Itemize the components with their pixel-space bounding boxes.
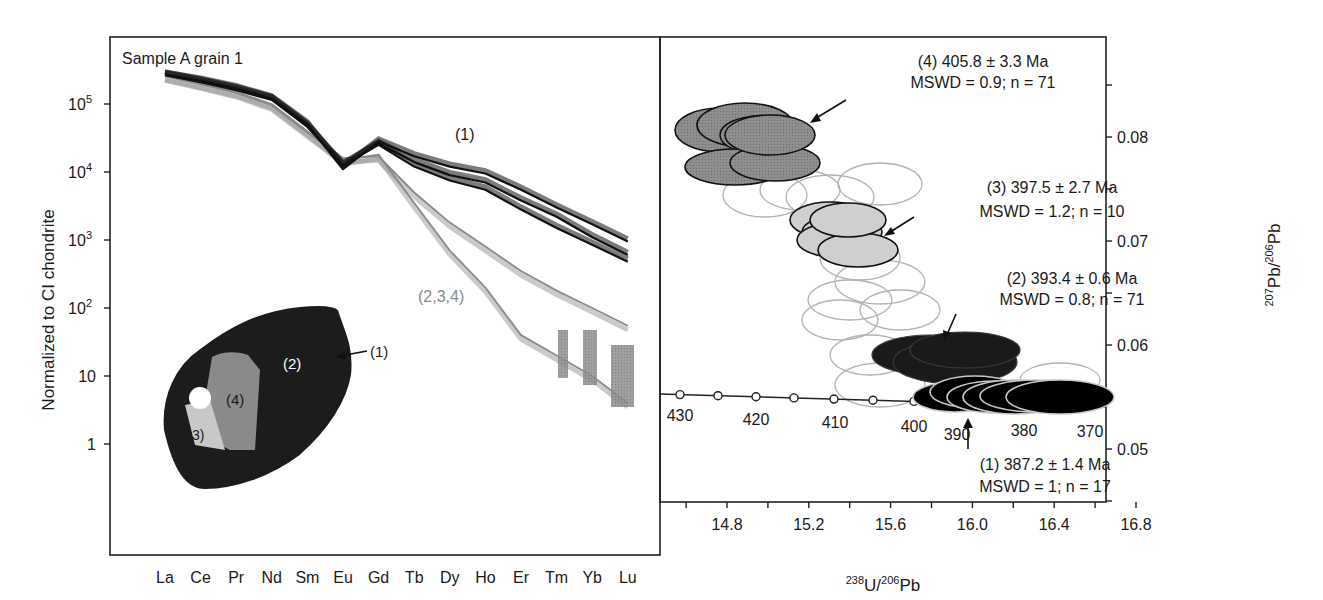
x-tick-label: 15.6 [875,516,906,533]
zircon-cl-inset: (2) (4) 3) (1) [163,305,389,490]
zone-2-label: (2) [283,355,301,372]
rim-curve-label: (1) [455,126,475,143]
ablation-pit [189,387,211,409]
group-4-age-label: (4) 405.8 ± 3.3 Ma [918,53,1049,70]
right-x-axis-label: 238U/206Pb [846,574,921,595]
x-category-label: Dy [440,569,460,586]
concordia-age-label: 400 [901,418,928,435]
concordia-age-label: 410 [822,414,849,431]
y-tick-label: 0.07 [1117,233,1148,250]
plot-title: Sample A grain 1 [122,50,243,67]
left-y-axis-label: Normalized to CI chondrite [39,209,58,410]
group-4-arrowhead [810,113,821,123]
concordia-age-marker [676,391,684,399]
x-category-label: Gd [368,569,389,586]
group-1-age-label: (1) 387.2 ± 1.4 Ma [980,456,1111,473]
y-tick-label: 1 [87,436,96,453]
x-category-label: Lu [619,569,637,586]
y-tick-label: 105 [68,93,92,113]
x-category-label: Ce [190,569,211,586]
x-category-label: La [156,569,174,586]
y-tick-label: 0.05 [1117,441,1148,458]
ree-pattern-band [165,72,628,259]
concordia-age-marker [714,392,722,400]
group-4-ellipses [675,103,820,185]
concordia-age-label: 370 [1077,423,1104,440]
y-tick-label: 103 [68,229,92,249]
x-tick-label: 16.4 [1039,516,1070,533]
y-tick-label: 0.08 [1117,129,1148,146]
x-tick-label: 16.8 [1120,516,1151,533]
x-tick-label: 16.0 [957,516,988,533]
x-category-label: Ho [475,569,496,586]
group-3-arrowhead [884,227,895,236]
group-3-ellipses [790,202,898,267]
left-y-axis: 105104103102101 [68,93,110,453]
group-4-stats-label: MSWD = 0.9; n = 71 [911,74,1056,91]
x-tick-label: 15.2 [793,516,824,533]
group-1-ellipses [913,376,1114,414]
concordia-age-marker [869,396,877,404]
zone-3-label: 3) [192,427,204,443]
y-tick-label: 102 [68,297,92,317]
right-y-axis-label: 207Pb/206Pb [1263,223,1284,306]
y-tick-label: 104 [68,161,92,181]
figure: Sample A grain 1 105104103102101 Normali… [0,0,1323,600]
x-category-label: Eu [333,569,353,586]
concordia-age-marker [790,394,798,402]
right-x-axis: 14.815.215.616.016.416.8 [686,502,1152,533]
group-1-arrowhead [963,418,973,428]
x-category-label: Nd [262,569,282,586]
ree-pattern-line [165,75,628,262]
y-tick-label: 10 [78,368,96,385]
concordia-age-marker [830,395,838,403]
group-2-stats-label: MSWD = 0.8; n = 71 [1000,291,1145,308]
ree-spider-plot: Sample A grain 1 105104103102101 Normali… [39,37,660,586]
x-tick-label: 14.8 [711,516,742,533]
x-category-label: Yb [582,569,602,586]
concordia-age-label: 390 [944,426,971,443]
core-curve-label: (2,3,4) [418,288,464,305]
group-2-ellipses [872,332,1020,384]
zone-1-label: (1) [370,343,388,360]
concordia-age-label: 380 [1011,422,1038,439]
ree-pattern-line [165,76,628,325]
x-category-label: Tm [545,569,568,586]
zone-4-label: (4) [226,391,244,408]
concordia-age-marker [752,393,760,401]
concordia-age-label: 420 [743,411,770,428]
group-1-stats-label: MSWD = 1; n = 17 [979,478,1111,495]
left-x-axis: LaCePrNdSmEuGdTbDyHoErTmYbLu [156,569,637,586]
concordia-age-label: 430 [667,407,694,424]
group-3-age-label: (3) 397.5 ± 2.7 Ma [987,179,1118,196]
y-tick-label: 0.06 [1117,337,1148,354]
group-3-stats-label: MSWD = 1.2; n = 10 [980,203,1125,220]
x-category-label: Tb [405,569,424,586]
group-2-age-label: (2) 393.4 ± 0.6 Ma [1007,270,1138,287]
x-category-label: Pr [228,569,245,586]
x-category-label: Er [513,569,530,586]
concordia-plot: 14.815.215.616.016.416.8 0.080.070.060.0… [660,37,1284,595]
x-category-label: Sm [295,569,319,586]
